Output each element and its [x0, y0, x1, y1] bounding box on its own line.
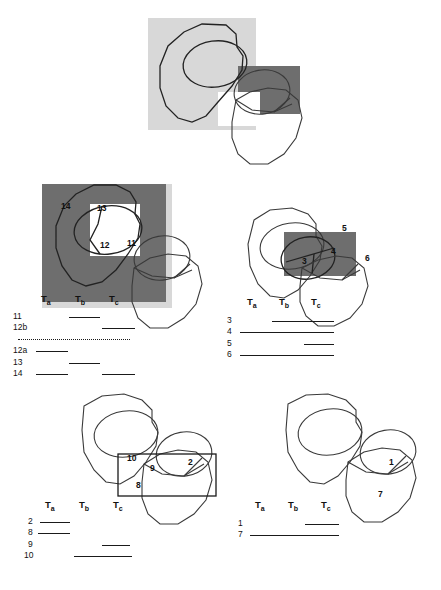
callout-6: 6 [365, 254, 370, 263]
axis-label-tb: Tb [279, 297, 289, 309]
range-bar-5 [304, 344, 334, 345]
row-label-10: 10 [24, 551, 33, 560]
chart-bottom-right: Ta Tb Tc 1 7 [238, 500, 368, 560]
callout-14: 14 [61, 202, 70, 211]
range-bar-6 [240, 355, 334, 356]
chart-bottom-left: Ta Tb Tc 2 8 9 10 [24, 500, 154, 570]
callout-4: 4 [331, 247, 336, 256]
callout-11: 11 [127, 239, 136, 248]
row-label-6: 6 [227, 350, 232, 359]
range-bar-9 [102, 545, 130, 546]
row-label-11: 11 [13, 312, 22, 321]
range-bar-10 [74, 556, 132, 557]
row-label-5: 5 [227, 339, 232, 348]
upper-ellipse-outline [91, 407, 161, 461]
axis-label-tc: Tc [109, 294, 119, 306]
row-label-3: 3 [227, 316, 232, 325]
range-bar-12b [102, 328, 135, 329]
range-bar-1 [305, 524, 339, 525]
callout-2: 2 [188, 458, 193, 467]
callout-1: 1 [389, 458, 394, 467]
range-bar-14-a [36, 374, 68, 375]
figure-root: 14 13 12 11 Ta Tb Tc 11 12b 12a 13 14 [0, 0, 441, 590]
top-panel [140, 14, 320, 179]
axis-label-tb: Tb [75, 294, 85, 306]
callout-10: 10 [127, 454, 136, 463]
axis-label-ta: Ta [247, 297, 257, 309]
top-panel-graphic [140, 14, 320, 179]
upper-ellipse-outline [295, 405, 365, 459]
axis-label-tc: Tc [113, 500, 123, 512]
range-bar-14-b [102, 374, 135, 375]
axis-label-ta: Ta [41, 294, 51, 306]
range-bar-7 [250, 535, 339, 536]
row-label-1: 1 [238, 519, 243, 528]
range-bar-13 [69, 363, 100, 364]
chart-middle-right: Ta Tb Tc 3 4 5 6 [227, 297, 352, 377]
callout-5: 5 [342, 224, 347, 233]
range-bar-3 [272, 321, 334, 322]
axis-label-tc: Tc [321, 500, 331, 512]
chart-middle-left: Ta Tb Tc 11 12b 12a 13 14 [10, 294, 140, 386]
axis-label-tb: Tb [79, 500, 89, 512]
row-label-12a: 12a [13, 346, 27, 355]
row-label-7: 7 [238, 530, 243, 539]
row-label-8: 8 [28, 528, 33, 537]
callout-13: 13 [97, 204, 106, 213]
callout-9: 9 [150, 464, 155, 473]
row-label-2: 2 [28, 517, 33, 526]
row-label-13: 13 [13, 358, 22, 367]
chart-divider [18, 339, 130, 340]
axis-label-tb: Tb [288, 500, 298, 512]
callout-12: 12 [100, 241, 109, 250]
upper-body-outline [82, 394, 158, 484]
range-bar-4 [240, 332, 334, 333]
row-label-12b: 12b [13, 323, 27, 332]
range-bar-12a [36, 351, 68, 352]
axis-label-ta: Ta [45, 500, 55, 512]
white-inset-region [218, 92, 260, 126]
callout-8: 8 [136, 481, 141, 490]
upper-body-outline [286, 394, 362, 484]
row-label-14: 14 [13, 369, 22, 378]
range-bar-8 [38, 533, 70, 534]
callout-3: 3 [302, 257, 307, 266]
range-bar-2 [40, 522, 70, 523]
row-label-4: 4 [227, 327, 232, 336]
axis-label-tc: Tc [311, 297, 321, 309]
callout-7: 7 [378, 490, 383, 499]
row-label-9: 9 [28, 540, 33, 549]
axis-label-ta: Ta [255, 500, 265, 512]
range-bar-11 [69, 317, 100, 318]
